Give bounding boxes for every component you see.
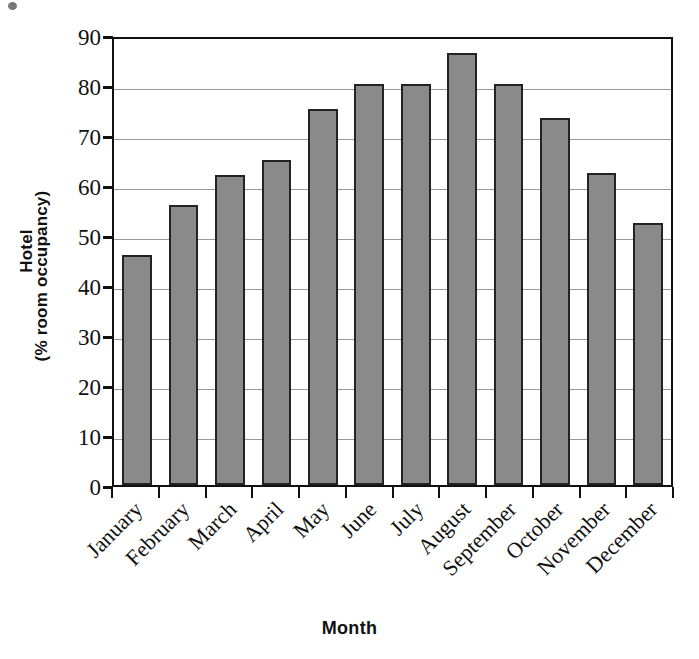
x-axis-tick-mark <box>345 487 347 498</box>
bar-slot <box>532 39 578 485</box>
bar-slot <box>439 39 485 485</box>
bar <box>169 205 199 485</box>
y-axis-tick-label: 50 <box>78 226 101 249</box>
bar-slot <box>253 39 299 485</box>
bar <box>540 118 570 486</box>
bar <box>122 255 152 485</box>
y-axis-tick-label: 20 <box>78 376 101 399</box>
y-axis-title-line-2: (% room occupancy) <box>31 146 53 406</box>
x-axis-tick-mark <box>158 487 160 498</box>
bar-slot <box>300 39 346 485</box>
bar-slot <box>346 39 392 485</box>
bar <box>633 223 663 486</box>
bar-series <box>114 39 671 485</box>
y-axis-tick-label: 30 <box>78 326 101 349</box>
x-axis-tick-label: April <box>239 498 287 546</box>
bar-slot <box>578 39 624 485</box>
x-axis-tick-label: June <box>337 498 381 542</box>
x-axis-tick-mark <box>438 487 440 498</box>
y-axis-tick-label: 0 <box>90 476 102 499</box>
bar <box>308 109 338 485</box>
y-axis-tick-label: 80 <box>78 76 101 99</box>
x-axis-tick-mark <box>532 487 534 498</box>
y-axis-tick-label: 40 <box>78 276 101 299</box>
bar-slot <box>160 39 206 485</box>
x-axis-tick-mark <box>251 487 253 498</box>
bar <box>587 173 617 486</box>
bar <box>354 84 384 486</box>
bar-slot <box>114 39 160 485</box>
y-axis-title: Hotel (% room occupancy) <box>0 0 62 500</box>
x-axis-tick-label: March <box>184 498 240 554</box>
x-axis-tick-mark <box>625 487 627 498</box>
x-axis-tick-mark <box>672 487 674 498</box>
bar-slot <box>393 39 439 485</box>
y-axis-tick-label: 60 <box>78 176 101 199</box>
bar-slot <box>207 39 253 485</box>
x-axis-tick-mark <box>579 487 581 498</box>
x-axis-tick-mark <box>298 487 300 498</box>
bar-slot <box>625 39 671 485</box>
bar <box>262 160 292 485</box>
bar-slot <box>485 39 531 485</box>
bar <box>447 53 477 486</box>
y-axis-tick-label: 90 <box>78 26 101 49</box>
bar <box>215 175 245 485</box>
x-axis-tick-labels: JanuaryFebruaryMarchAprilMayJuneJulyAugu… <box>112 498 673 608</box>
bar <box>494 84 524 486</box>
x-axis-tick-mark <box>205 487 207 498</box>
plot-area <box>112 37 673 487</box>
bar <box>401 84 431 486</box>
bar-chart: Hotel (% room occupancy) 010203040506070… <box>0 0 699 659</box>
y-axis-tick-label: 10 <box>78 426 101 449</box>
x-axis-tick-mark <box>392 487 394 498</box>
y-axis-tick-label: 70 <box>78 126 101 149</box>
x-axis-tick-mark <box>485 487 487 498</box>
x-axis-title: Month <box>0 618 699 639</box>
x-axis-tick-mark <box>111 487 113 498</box>
x-axis-tick-label: May <box>290 498 334 542</box>
